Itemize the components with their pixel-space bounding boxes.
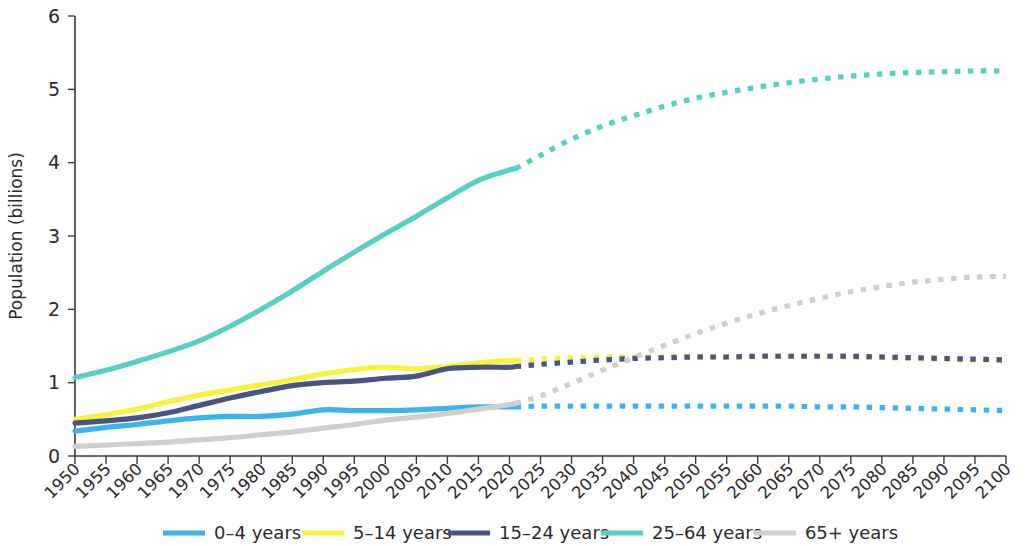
series-line-historical-25-64-years	[75, 169, 516, 378]
y-tick-label: 5	[48, 78, 60, 100]
y-tick-label: 3	[48, 225, 60, 247]
chart-container: 0123456 Population (billions) 1950195519…	[0, 0, 1030, 546]
series-65+-years	[75, 276, 1006, 446]
legend-item-25-64-years[interactable]: 25–64 years	[601, 522, 762, 543]
series-5-14-years	[75, 356, 1006, 419]
series-25-64-years	[75, 71, 1006, 378]
y-tick-group: 0123456	[48, 5, 75, 467]
legend-item-5-14-years[interactable]: 5–14 years	[302, 522, 452, 543]
y-tick-label: 0	[48, 445, 60, 467]
legend-label: 5–14 years	[353, 522, 452, 543]
series-line-projection-65+-years	[516, 276, 1006, 403]
chart-legend: 0–4 years5–14 years15–24 years25–64 year…	[163, 522, 898, 543]
y-tick-label: 6	[48, 5, 60, 27]
series-line-projection-25-64-years	[516, 71, 1006, 169]
series-15-24-years	[75, 356, 1006, 423]
x-tick-group: 1950195519601965197019751980198519901995…	[41, 456, 1015, 503]
y-tick-label: 2	[48, 298, 60, 320]
legend-item-15-24-years[interactable]: 15–24 years	[448, 522, 609, 543]
population-line-chart: 0123456 Population (billions) 1950195519…	[0, 0, 1030, 546]
y-tick-label: 4	[48, 151, 60, 173]
y-axis-label: Population (billions)	[6, 152, 26, 320]
series-line-projection-0-4-years	[516, 406, 1006, 410]
x-tick-label: 2100	[972, 459, 1015, 502]
legend-label: 15–24 years	[499, 522, 609, 543]
series-group	[75, 71, 1006, 447]
y-tick-label: 1	[48, 371, 60, 393]
legend-label: 0–4 years	[214, 522, 301, 543]
y-axis-group: 0123456 Population (billions)	[6, 5, 75, 467]
legend-item-0-4-years[interactable]: 0–4 years	[163, 522, 301, 543]
legend-item-65+-years[interactable]: 65+ years	[754, 522, 898, 543]
legend-label: 25–64 years	[652, 522, 762, 543]
series-0-4-years	[75, 406, 1006, 431]
legend-label: 65+ years	[805, 522, 898, 543]
x-axis-group: 1950195519601965197019751980198519901995…	[41, 456, 1015, 503]
